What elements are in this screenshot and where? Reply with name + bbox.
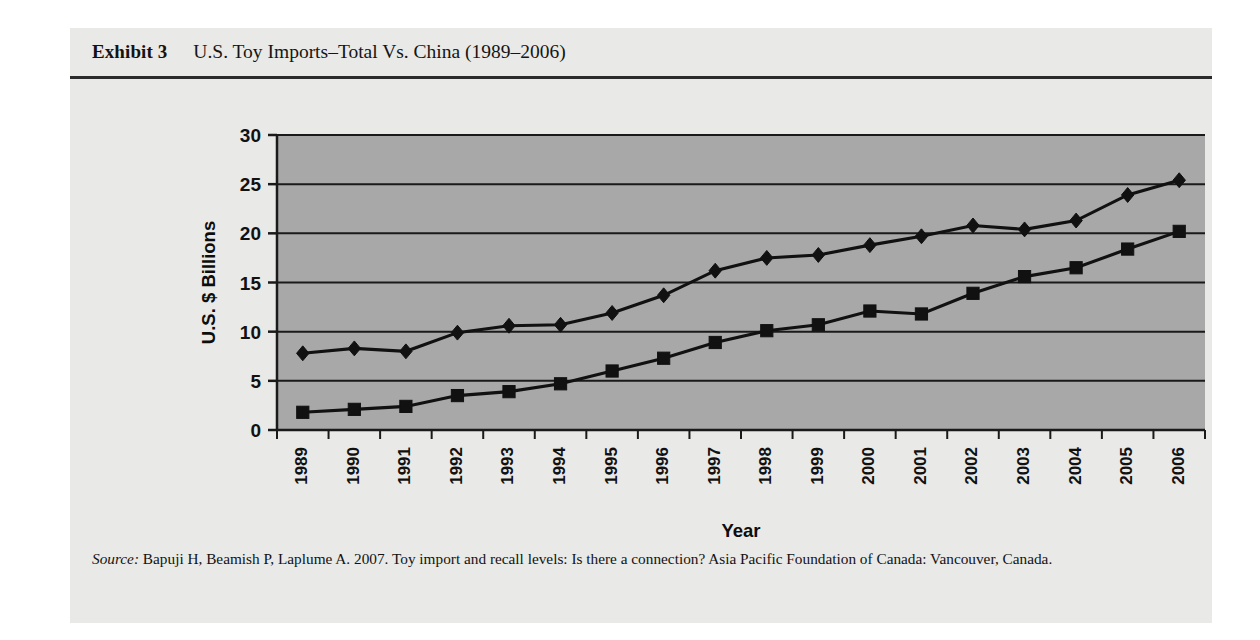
data-point-marker <box>400 400 412 412</box>
data-point-marker <box>709 336 721 348</box>
data-point-marker <box>1173 225 1185 237</box>
x-tick-label: 1989 <box>292 447 311 485</box>
data-point-marker <box>297 406 309 418</box>
x-tick-label: 1990 <box>344 447 363 485</box>
x-tick-label: 2006 <box>1169 447 1188 485</box>
exhibit-panel: Exhibit 3 U.S. Toy Imports–Total Vs. Chi… <box>70 28 1212 623</box>
x-tick-label: 1999 <box>808 447 827 485</box>
exhibit-label: Exhibit 3 <box>92 41 167 63</box>
x-tick-label: 1998 <box>756 447 775 485</box>
x-tick-label: 1991 <box>395 447 414 485</box>
source-label: Source: <box>92 550 139 567</box>
y-tick-label: 15 <box>240 273 262 294</box>
x-tick-label: 2003 <box>1014 447 1033 485</box>
x-tick-label: 2005 <box>1117 447 1136 485</box>
data-point-marker <box>606 365 618 377</box>
x-tick-label: 2002 <box>962 447 981 485</box>
y-axis: 051015202530 <box>240 125 277 441</box>
exhibit-title: U.S. Toy Imports–Total Vs. China (1989–2… <box>193 41 565 63</box>
y-axis-title: U.S. $ Billions <box>198 221 219 344</box>
data-point-marker <box>348 403 360 415</box>
y-tick-label: 20 <box>240 223 261 244</box>
x-tick-label: 2004 <box>1066 446 1085 484</box>
data-point-marker <box>1122 243 1134 255</box>
data-point-marker <box>967 287 979 299</box>
data-point-marker <box>1018 271 1030 283</box>
source-note: Source: Bapuji H, Beamish P, Laplume A. … <box>92 548 1197 570</box>
page-root: Exhibit 3 U.S. Toy Imports–Total Vs. Chi… <box>0 0 1260 640</box>
source-text: Bapuji H, Beamish P, Laplume A. 2007. To… <box>139 550 1052 567</box>
x-axis-title: Year <box>721 520 760 541</box>
chart-region: 051015202530 198919901991199219931994199… <box>70 79 1212 545</box>
x-tick-label: 1994 <box>550 446 569 484</box>
data-point-marker <box>915 308 927 320</box>
data-point-marker <box>812 319 824 331</box>
y-tick-label: 0 <box>250 420 261 441</box>
data-point-marker <box>503 386 515 398</box>
data-point-marker <box>451 389 463 401</box>
data-point-marker <box>1070 262 1082 274</box>
y-tick-label: 10 <box>240 322 261 343</box>
exhibit-header: Exhibit 3 U.S. Toy Imports–Total Vs. Chi… <box>70 28 1212 76</box>
x-tick-label: 1997 <box>705 447 724 485</box>
data-point-marker <box>658 352 670 364</box>
line-chart: 051015202530 198919901991199219931994199… <box>70 79 1212 545</box>
x-tick-label: 1993 <box>498 447 517 485</box>
x-tick-label: 2001 <box>911 447 930 485</box>
data-point-marker <box>554 378 566 390</box>
y-tick-label: 25 <box>240 174 262 195</box>
x-tick-label: 2000 <box>859 447 878 485</box>
y-tick-label: 5 <box>250 371 261 392</box>
x-axis: 1989199019911992199319941995199619971998… <box>277 430 1205 485</box>
data-point-marker <box>864 305 876 317</box>
data-point-marker <box>761 325 773 337</box>
x-tick-label: 1995 <box>602 447 621 485</box>
y-tick-label: 30 <box>240 125 261 146</box>
x-tick-label: 1996 <box>653 447 672 485</box>
x-tick-label: 1992 <box>447 447 466 485</box>
